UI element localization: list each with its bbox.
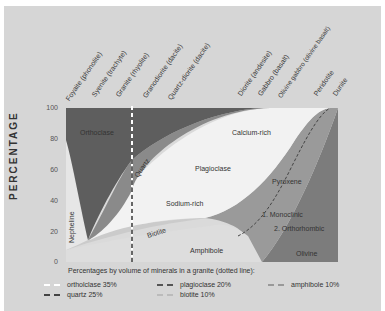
legend-item-quartz: quartz 25%: [44, 291, 102, 298]
legend-item-orthoclase: ortholclase 35%: [44, 281, 117, 288]
label-olivine: Olivine: [296, 250, 318, 257]
label-plagioclase: Plagioclase: [195, 165, 231, 173]
label-pyroxene: Pyroxene: [272, 178, 302, 186]
label-nepheline: Nepheline: [68, 211, 76, 243]
legend-item-plagioclase: plagioclase 20%: [157, 281, 231, 288]
label-orthoclase: Orthoclase: [80, 129, 114, 136]
legend-title: Percentages by volume of minerals in a g…: [68, 267, 255, 274]
label-orthorhombic: 2. Orthorhombic: [274, 225, 325, 232]
legend-label: quartz 25%: [67, 291, 102, 298]
legend-item-biotite: biotite 10%: [157, 291, 215, 298]
legend-label: plagioclase 20%: [180, 281, 231, 288]
label-monoclinic: 1. Monoclinic: [262, 211, 303, 218]
legend-label: ortholclase 35%: [67, 281, 117, 288]
label-calcium-rich: Calcium-rich: [232, 129, 271, 136]
chart-plot: Orthoclase Quartz Nepheline Calcium-rich…: [0, 0, 385, 311]
legend-label: biotite 10%: [180, 291, 215, 298]
swatch-biotite: [157, 294, 173, 296]
swatch-plagioclase: [157, 284, 173, 286]
label-sodium-rich: Sodium-rich: [166, 200, 203, 207]
swatch-amphibole: [268, 284, 284, 286]
swatch-orthoclase: [44, 284, 60, 286]
label-amphibole: Amphibole: [190, 247, 223, 255]
swatch-quartz: [44, 294, 60, 296]
legend-item-amphibole: amphibole 10%: [268, 281, 339, 288]
legend-label: amphibole 10%: [291, 281, 339, 288]
